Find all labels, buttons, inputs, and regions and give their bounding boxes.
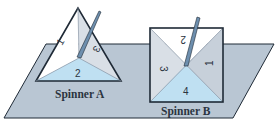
spinner-a-number-2: 2 (75, 68, 81, 79)
spinner-b-label: Spinner B (161, 105, 211, 118)
spinner-b-number-1: 1 (204, 60, 215, 66)
spinner-b-number-2: 2 (180, 34, 186, 45)
spinner-b-number-4: 4 (183, 86, 189, 97)
spinner-a-label: Spinner A (55, 88, 105, 101)
spinners-diagram: 1 2 3 Spinner A 2 3 1 4 Spinner B (0, 0, 276, 127)
diagram-canvas: 1 2 3 Spinner A 2 3 1 4 Spinner B (0, 0, 276, 127)
spinner-b-number-3: 3 (158, 66, 169, 72)
